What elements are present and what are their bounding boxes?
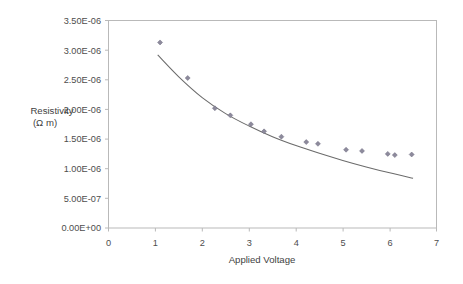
y-tick-label: 1.00E-06	[64, 164, 101, 174]
x-tick-label: 6	[388, 238, 393, 248]
plot-area-frame	[109, 21, 437, 229]
x-tick-label: 2	[200, 238, 205, 248]
y-tick-label: 2.50E-06	[64, 75, 101, 85]
x-tick-label: 3	[247, 238, 252, 248]
x-axis-ticks	[109, 228, 437, 232]
y-axis-title-line2: (Ω m)	[33, 117, 57, 128]
y-axis-ticks	[105, 21, 109, 229]
y-tick-label: 5.00E-07	[64, 194, 101, 204]
resistivity-vs-voltage-chart: 3.50E-06 3.00E-06 2.50E-06 2.00E-06 1.50…	[0, 0, 463, 284]
y-axis-tick-labels: 3.50E-06 3.00E-06 2.50E-06 2.00E-06 1.50…	[61, 16, 101, 234]
x-tick-label: 4	[294, 238, 299, 248]
x-tick-label: 0	[106, 238, 111, 248]
x-tick-label: 5	[341, 238, 346, 248]
x-tick-label: 7	[434, 238, 439, 248]
chart-container: 3.50E-06 3.00E-06 2.50E-06 2.00E-06 1.50…	[0, 0, 463, 284]
y-tick-label: 0.00E+00	[61, 223, 101, 233]
y-axis-title-line1: Resistivity	[30, 105, 73, 116]
y-axis-title: Resistivity (Ω m)	[30, 105, 73, 128]
x-axis-title: Applied Voltage	[229, 254, 296, 265]
y-tick-label: 1.50E-06	[64, 134, 101, 144]
y-tick-label: 3.50E-06	[64, 16, 101, 26]
x-axis-tick-labels: 0 1 2 3 4 5 6 7	[106, 238, 439, 248]
x-tick-label: 1	[153, 238, 158, 248]
y-tick-label: 3.00E-06	[64, 46, 101, 56]
